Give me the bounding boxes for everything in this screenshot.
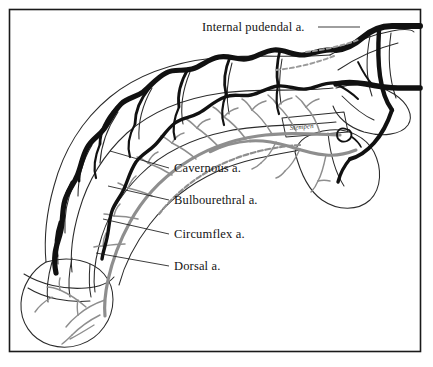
figure-container: Internal pudendal a. Cavernous a. Bulbou…	[0, 0, 433, 367]
label-internal-pudendal: Internal pudendal a.	[202, 20, 305, 34]
label-cavernous: Cavernous a.	[174, 161, 241, 175]
label-dorsal: Dorsal a.	[174, 259, 220, 273]
label-circumflex: Circumflex a.	[174, 227, 245, 241]
anatomy-diagram-svg: Internal pudendal a. Cavernous a. Bulbou…	[0, 0, 433, 367]
label-bulbourethral: Bulbourethral a.	[174, 193, 258, 207]
